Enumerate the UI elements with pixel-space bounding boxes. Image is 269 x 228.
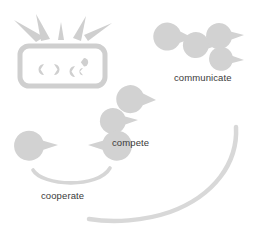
cooperate-smile-arc	[33, 168, 110, 183]
label-cooperate: cooperate	[41, 190, 84, 201]
screen-agent-icon	[70, 66, 76, 77]
diagram-canvas: communicate compete cooperate	[0, 0, 269, 228]
screen-agent-icon	[54, 64, 60, 75]
ray-icon	[58, 22, 64, 40]
ray-icon	[73, 16, 86, 41]
agent-icon	[14, 131, 58, 161]
screen-frame	[20, 46, 105, 86]
broadcast-screen-group	[14, 14, 112, 86]
label-compete: compete	[112, 137, 149, 148]
screen-agent-icon	[79, 68, 83, 75]
agent-icon	[206, 23, 244, 49]
screen-agent-icon	[39, 64, 45, 75]
communicate-agent-group	[153, 23, 244, 71]
ray-icon	[84, 23, 112, 41]
label-communicate: communicate	[174, 72, 232, 83]
agent-icon	[209, 47, 244, 71]
compete-agent-group	[100, 85, 156, 134]
screen-agent-icon	[81, 58, 88, 66]
agent-icon	[116, 85, 156, 113]
